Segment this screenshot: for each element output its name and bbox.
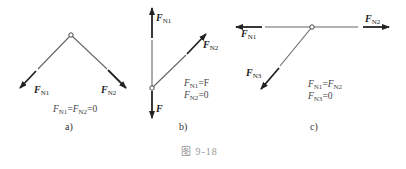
force-label-f-b: F xyxy=(156,103,163,114)
equation-b-2: FN2=0 xyxy=(184,89,208,104)
force-label-fn2-b: FN2 xyxy=(203,39,218,52)
equation-c-2: FN3=0 xyxy=(308,90,332,105)
panel-a-members xyxy=(20,33,126,88)
force-label-fn1-a: FN1 xyxy=(34,84,49,97)
force-label-fn2-c: FN2 xyxy=(365,13,380,26)
force-label-fn3-c: FN3 xyxy=(246,67,261,80)
caption-a: a) xyxy=(65,121,73,132)
figure-caption: 图 9-18 xyxy=(181,143,218,158)
force-label-fn1-b: FN1 xyxy=(156,12,171,25)
force-label-fn2-a: FN2 xyxy=(101,84,116,97)
caption-b: b) xyxy=(179,121,187,132)
force-label-fn1-c: FN1 xyxy=(241,28,256,41)
equation-a: FN1=FN2=0 xyxy=(53,103,97,118)
caption-c: c) xyxy=(310,121,318,132)
